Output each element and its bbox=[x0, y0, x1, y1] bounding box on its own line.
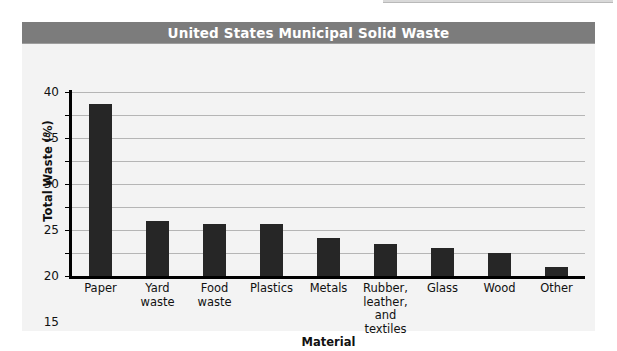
y-axis-tick-mark: 15 bbox=[65, 207, 70, 208]
x-axis-title: Material bbox=[72, 335, 585, 349]
x-axis-tick-label-line: leather, bbox=[357, 296, 414, 310]
bar bbox=[545, 267, 568, 276]
bar bbox=[317, 238, 340, 276]
y-axis-tick-label: 15 bbox=[44, 315, 59, 329]
bar bbox=[488, 253, 511, 276]
bar bbox=[374, 244, 397, 276]
x-axis-tick-label: Other bbox=[528, 282, 585, 336]
chart-title: United States Municipal Solid Waste bbox=[22, 22, 595, 44]
y-axis-tick-mark: 10 bbox=[65, 230, 70, 231]
x-axis-tick-label: Foodwaste bbox=[186, 282, 243, 336]
x-axis-tick-label-line: Paper bbox=[72, 282, 129, 296]
y-axis-tick-label: 30 bbox=[44, 177, 59, 191]
x-axis-tick-label-line: Rubber, bbox=[357, 282, 414, 296]
x-axis-tick-label-line: Yard bbox=[129, 282, 186, 296]
bar-series bbox=[72, 92, 585, 276]
bar bbox=[431, 248, 454, 276]
y-axis-tick-label: 40 bbox=[44, 85, 59, 99]
x-axis-line bbox=[69, 276, 585, 279]
x-axis-tick-labels: PaperYardwasteFoodwastePlasticsMetalsRub… bbox=[72, 282, 585, 336]
bar-slot bbox=[357, 92, 414, 276]
x-axis-tick-label: Paper bbox=[72, 282, 129, 336]
x-axis-tick-label: Wood bbox=[471, 282, 528, 336]
y-axis-tick-mark: 40 bbox=[65, 92, 70, 93]
chart-figure: United States Municipal Solid Waste Tota… bbox=[22, 22, 595, 331]
y-axis-tick-mark: 5 bbox=[65, 253, 70, 254]
y-axis-tick-mark: 30 bbox=[65, 138, 70, 139]
bar bbox=[203, 224, 226, 276]
x-axis-tick-label-line: Metals bbox=[300, 282, 357, 296]
x-axis-tick-label-line: Plastics bbox=[243, 282, 300, 296]
bar-slot bbox=[129, 92, 186, 276]
page-top-rule bbox=[383, 2, 613, 3]
y-axis-tick-label: 20 bbox=[44, 269, 59, 283]
x-axis-tick-label-line: waste bbox=[129, 296, 186, 310]
bar bbox=[260, 224, 283, 276]
bar-slot bbox=[414, 92, 471, 276]
y-axis-tick-mark: 25 bbox=[65, 161, 70, 162]
x-axis-tick-label-line: waste bbox=[186, 296, 243, 310]
bar-slot bbox=[528, 92, 585, 276]
bar-slot bbox=[72, 92, 129, 276]
bar-slot bbox=[300, 92, 357, 276]
x-axis-tick-label-line: Food bbox=[186, 282, 243, 296]
x-axis-tick-label: Metals bbox=[300, 282, 357, 336]
y-axis-tick-mark: 20 bbox=[65, 184, 70, 185]
x-axis-tick-label-line: Wood bbox=[471, 282, 528, 296]
plot-wrapper: Total Waste (%) 0510152025303540 PaperYa… bbox=[22, 44, 595, 331]
plot-area: 0510152025303540 PaperYardwasteFoodwaste… bbox=[72, 92, 585, 276]
bar-slot bbox=[471, 92, 528, 276]
y-axis-title: Total Waste (%) bbox=[41, 101, 55, 241]
bar bbox=[89, 104, 112, 277]
bar-slot bbox=[186, 92, 243, 276]
x-axis-tick-label-line: and textiles bbox=[357, 309, 414, 336]
bar-slot bbox=[243, 92, 300, 276]
y-axis-tick-mark: 35 bbox=[65, 115, 70, 116]
x-axis-tick-label: Plastics bbox=[243, 282, 300, 336]
y-axis-tick-label: 25 bbox=[44, 223, 59, 237]
y-axis-tick-label: 35 bbox=[44, 131, 59, 145]
y-axis-tick-mark: 0 bbox=[65, 276, 70, 277]
x-axis-tick-label: Yardwaste bbox=[129, 282, 186, 336]
x-axis-tick-label: Glass bbox=[414, 282, 471, 336]
x-axis-tick-label-line: Other bbox=[528, 282, 585, 296]
x-axis-tick-label: Rubber,leather,and textiles bbox=[357, 282, 414, 336]
bar bbox=[146, 221, 169, 276]
x-axis-tick-label-line: Glass bbox=[414, 282, 471, 296]
